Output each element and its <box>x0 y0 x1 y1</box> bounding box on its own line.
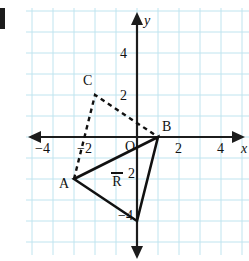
vector-r-letter: R <box>111 175 123 189</box>
x-tick-neg4: −4 <box>35 142 50 156</box>
y-tick-4: 4 <box>120 47 127 61</box>
point-label-c: C <box>83 74 92 88</box>
point-label-a: A <box>59 177 69 191</box>
y-tick-neg4: −4 <box>118 209 133 223</box>
coordinate-plane-figure: y x 4 2 2 −4 −4 −2 2 4 O A B C R <box>0 0 249 261</box>
y-axis-label: y <box>144 14 150 28</box>
x-tick-neg2: −2 <box>77 142 92 156</box>
point-label-b: B <box>162 120 171 134</box>
y-axis-arrow-up <box>131 12 143 25</box>
y-axis-arrow-down <box>131 246 143 259</box>
x-tick-2: 2 <box>175 142 182 156</box>
x-axis-label: x <box>241 142 247 156</box>
vector-r-label: R <box>111 172 123 189</box>
x-tick-4: 4 <box>217 142 224 156</box>
origin-label: O <box>125 140 135 154</box>
y-tick-2: 2 <box>120 89 127 103</box>
y-tick-neg2: 2 <box>128 167 135 181</box>
